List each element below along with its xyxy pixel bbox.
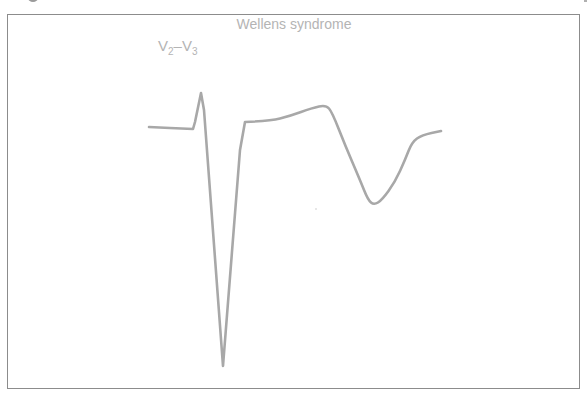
ecg-trace-line: [149, 93, 441, 366]
speck-artifact: [315, 208, 317, 210]
ecg-waveform: [0, 0, 588, 404]
